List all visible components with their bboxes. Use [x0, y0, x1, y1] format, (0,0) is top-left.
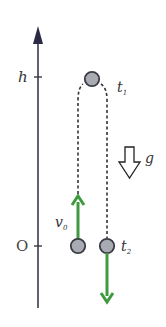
- t2-label: t2: [121, 238, 132, 256]
- velocity-up-arrow-icon: [72, 196, 84, 240]
- velocity-down-arrow-icon: [101, 253, 113, 302]
- projectile-diagram: h O t1 g v0 t2: [0, 0, 166, 327]
- gravity-arrow-icon: [119, 147, 140, 178]
- ball-at-t2: [100, 239, 114, 253]
- trajectory-up-dashed: [78, 84, 83, 194]
- ball-at-t1: [85, 72, 99, 86]
- trajectory-down-dashed: [101, 84, 107, 238]
- axis-arrowhead-icon: [33, 26, 43, 44]
- origin-label: O: [16, 237, 28, 255]
- t1-label: t1: [117, 79, 127, 97]
- v0-label: v0: [55, 214, 68, 232]
- h-label: h: [18, 68, 28, 86]
- gravity-label: g: [145, 150, 154, 166]
- ball-at-launch: [71, 239, 85, 253]
